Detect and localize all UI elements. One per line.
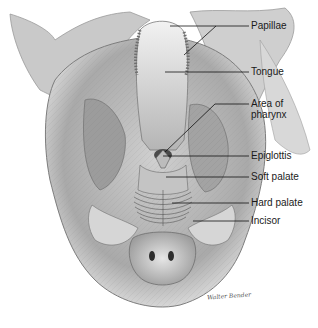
label-epiglottis: Epiglottis [251,150,292,161]
tongue [136,21,187,150]
label-tongue: Tongue [251,66,284,77]
label-hard-palate: Hard palate [251,197,303,208]
nostril-left [149,251,155,261]
nostril-right [168,251,174,261]
snout [129,232,195,285]
label-incisor: Incisor [251,215,280,226]
label-pharynx-line1: Area of [251,98,287,109]
label-pharynx-line2: pharynx [251,109,287,120]
label-soft-palate: Soft palate [251,171,299,182]
anatomy-illustration: Papillae Tongue Area of pharynx Epiglott… [0,0,318,328]
label-papillae: Papillae [251,20,287,31]
label-area-of-pharynx: Area of pharynx [251,98,287,120]
pig-mouth-drawing [0,0,318,328]
